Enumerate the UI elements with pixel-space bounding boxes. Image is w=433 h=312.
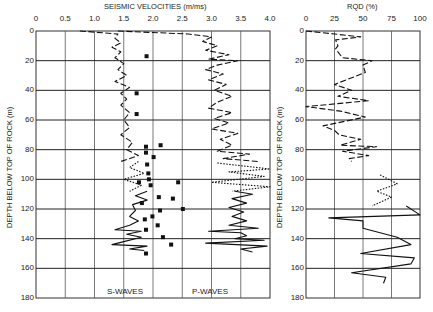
crosshole-marker bbox=[144, 151, 148, 155]
seismic-x-tick-label: 1.5 bbox=[109, 15, 139, 23]
rqd-x-tick-label: 0 bbox=[291, 15, 321, 23]
rqd-y-tick-label: 80 bbox=[274, 146, 304, 154]
seismic-y-tick-label: 140 bbox=[4, 235, 34, 243]
seismic-y-tick-label: 40 bbox=[4, 86, 34, 94]
rqd-x-tick-label: 100 bbox=[405, 15, 433, 23]
seismic-x-tick-label: 0.5 bbox=[50, 15, 80, 23]
seismic-y-tick-label: 80 bbox=[4, 146, 34, 154]
rqd-series-line bbox=[306, 31, 377, 162]
crosshole-marker bbox=[144, 228, 148, 232]
seismic-y-tick-label: 120 bbox=[4, 205, 34, 213]
crosshole-marker bbox=[150, 214, 154, 218]
seismic-series-line bbox=[124, 162, 144, 192]
rqd-y-tick-label: 0 bbox=[274, 27, 304, 35]
rqd-series-line bbox=[329, 206, 420, 283]
rqd-y-tick-label: 180 bbox=[274, 294, 304, 302]
rqd-chart-title: RQD (%) bbox=[347, 3, 377, 11]
crosshole-marker bbox=[146, 171, 150, 175]
seismic-x-tick-label: 3.0 bbox=[197, 15, 227, 23]
crosshole-marker bbox=[144, 145, 148, 149]
seismic-y-tick-label: 0 bbox=[4, 27, 34, 35]
seismic-chart-title: SEISMIC VELOCITIES (m/ms) bbox=[104, 3, 207, 11]
figure-canvas bbox=[0, 0, 433, 312]
rqd-x-tick-label: 25 bbox=[320, 15, 350, 23]
seismic-series-line bbox=[206, 191, 267, 252]
seismic-y-tick-label: 180 bbox=[4, 294, 34, 302]
seismic-y-tick-label: 160 bbox=[4, 264, 34, 272]
crosshole-marker bbox=[143, 217, 147, 221]
rqd-y-tick-label: 20 bbox=[274, 57, 304, 65]
crosshole-marker bbox=[158, 208, 162, 212]
crosshole-marker bbox=[140, 201, 144, 205]
crosshole-marker bbox=[147, 177, 151, 181]
p-waves-annotation: P-WAVES bbox=[192, 288, 228, 296]
crosshole-marker bbox=[144, 252, 148, 256]
seismic-x-tick-label: 2.5 bbox=[167, 15, 197, 23]
seismic-x-tick-label: 1.0 bbox=[80, 15, 110, 23]
rqd-y-tick-label: 100 bbox=[274, 175, 304, 183]
crosshole-marker bbox=[157, 195, 161, 199]
rqd-x-tick-label: 50 bbox=[348, 15, 378, 23]
seismic-series-line bbox=[112, 191, 147, 250]
seismic-x-tick-label: 4.0 bbox=[255, 15, 285, 23]
seismic-x-tick-label: 0 bbox=[21, 15, 51, 23]
s-waves-annotation: S-WAVES bbox=[107, 288, 143, 296]
rqd-y-tick-label: 120 bbox=[274, 205, 304, 213]
seismic-velocity-plot bbox=[36, 31, 270, 298]
seismic-y-tick-label: 100 bbox=[4, 175, 34, 183]
rqd-y-tick-label: 140 bbox=[274, 235, 304, 243]
crosshole-marker bbox=[149, 183, 153, 187]
crosshole-marker bbox=[181, 207, 185, 211]
seismic-x-tick-label: 3.5 bbox=[226, 15, 256, 23]
seismic-series-line bbox=[80, 31, 138, 162]
crosshole-marker bbox=[156, 223, 160, 227]
crosshole-marker bbox=[137, 180, 141, 184]
crosshole-marker bbox=[135, 91, 139, 95]
crosshole-marker bbox=[145, 54, 149, 58]
rqd-x-tick-label: 75 bbox=[377, 15, 407, 23]
crosshole-marker bbox=[145, 163, 149, 167]
seismic-x-tick-label: 2.0 bbox=[138, 15, 168, 23]
seismic-y-tick-label: 60 bbox=[4, 116, 34, 124]
rqd-y-tick-label: 40 bbox=[274, 86, 304, 94]
crosshole-marker bbox=[161, 235, 165, 239]
crosshole-marker bbox=[169, 243, 173, 247]
crosshole-marker bbox=[159, 143, 163, 147]
seismic-series-line bbox=[118, 31, 258, 162]
crosshole-marker bbox=[135, 112, 139, 116]
seismic-y-tick-label: 20 bbox=[4, 57, 34, 65]
rqd-y-tick-label: 160 bbox=[274, 264, 304, 272]
crosshole-marker bbox=[152, 155, 156, 159]
rqd-plot bbox=[306, 31, 420, 298]
rqd-y-tick-label: 60 bbox=[274, 116, 304, 124]
crosshole-marker bbox=[171, 197, 175, 201]
crosshole-marker bbox=[176, 180, 180, 184]
